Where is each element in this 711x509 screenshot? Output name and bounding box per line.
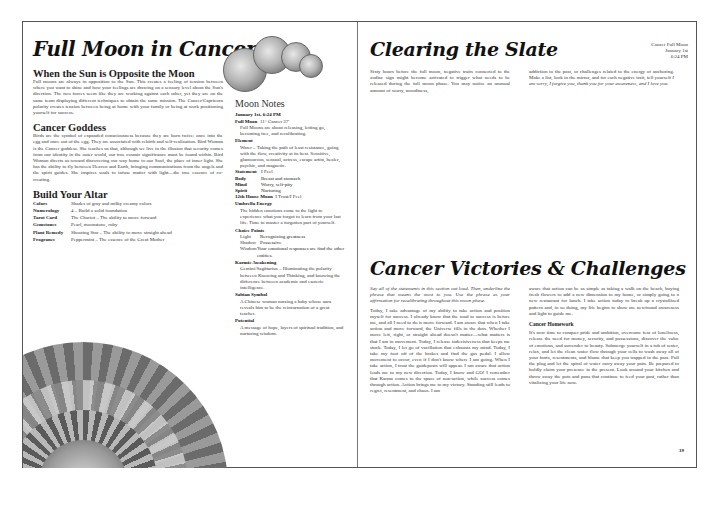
altar-row: FragrancePeppermint – The essence of the… — [33, 236, 223, 243]
house-label: 12th House Moon — [235, 194, 273, 199]
altar-value: Pearl, moonstone, ruby — [71, 221, 223, 228]
karmic-desc: Gemini/Sagittarius – Illuminating the po… — [235, 266, 345, 291]
sabian-desc: A Chinese woman nursing a baby whose aur… — [235, 299, 345, 318]
page-number: 19 — [679, 448, 684, 453]
left-main-column: When the Sun is Opposite the Moon Full m… — [33, 68, 223, 249]
house-row: 12th House Moon I Trust/I Feel — [235, 194, 345, 200]
section-heading: Build Your Altar — [33, 189, 223, 200]
altar-key: Numerology — [33, 207, 71, 214]
altar-value: The Chariot – The ability to move forwar… — [71, 214, 223, 221]
moon-notes-sidebar: Moon Notes January 1st, 6:24 PM Full Moo… — [235, 98, 345, 337]
altar-row: Numerology4 – Build a solid foundation — [33, 207, 223, 214]
section-body: Birds are the symbol of expanded conscio… — [33, 133, 223, 183]
section-body: Full moons are always in opposition to t… — [33, 79, 223, 116]
choice-key: Wisdom — [240, 246, 257, 258]
section-cancer-goddess: Cancer Goddess Birds are the symbol of e… — [33, 122, 223, 183]
section-heading: Cancer Goddess — [33, 122, 223, 133]
book-spine — [357, 22, 358, 467]
altar-key: Colors — [33, 200, 71, 207]
altar-key: Tarot Card — [33, 214, 71, 221]
clearing-slate-title: Clearing the Slate — [370, 38, 558, 60]
altar-value: 4 – Build a solid foundation — [71, 207, 223, 214]
victories-col2: aware that action can be as simple as ta… — [529, 286, 679, 389]
altar-row: Plant RemedyShooting Star – The ability … — [33, 229, 223, 236]
slate-text-col1: Sixty hours before the full moon, negati… — [370, 69, 510, 94]
section-build-altar: Build Your Altar ColorsShades of gray an… — [33, 189, 223, 243]
timestamp-line: 6:24 PM — [651, 54, 688, 60]
section-sun-opposite-moon: When the Sun is Opposite the Moon Full m… — [33, 68, 223, 116]
altar-key: Gemstones — [33, 221, 71, 228]
altar-value: Shooting Star – The ability to move stra… — [71, 229, 223, 236]
book-spread: Full Moon in Cancer When the Sun is Oppo… — [22, 21, 697, 468]
moon-image — [299, 54, 323, 78]
choice-value: Your emotional responses are find the ot… — [257, 246, 345, 258]
slate-text: addiction to the past, or challenges rel… — [529, 69, 674, 80]
choice-row: WisdomYour emotional responses are find … — [235, 246, 345, 258]
altar-row: GemstonesPearl, moonstone, ruby — [33, 221, 223, 228]
altar-key: Plant Remedy — [33, 229, 71, 236]
moon-timestamp: Cancer Full Moon January 1st 6:24 PM — [651, 42, 688, 60]
house-value: I Trust/I Feel — [275, 194, 301, 199]
altar-value: Shades of gray and milky creamy colors — [71, 200, 223, 207]
full-moon-label: Full Moon — [235, 119, 257, 124]
victories-intro: Say all of the statements in this sectio… — [370, 286, 510, 305]
full-moon-value: 11° Cancer 37' — [260, 119, 289, 124]
umbrella-desc: The hidden emotions come to the light to… — [235, 208, 345, 227]
altar-key: Fragrance — [33, 236, 71, 243]
slate-text-col2: addiction to the past, or challenges rel… — [529, 69, 674, 88]
homework-heading: Cancer Homework — [529, 321, 679, 327]
full-moon-desc: Full Moons are about releasing, letting … — [235, 125, 345, 137]
altar-row: ColorsShades of gray and milky creamy co… — [33, 200, 223, 207]
homework-text: It's now time to conquer pride and ambit… — [529, 330, 679, 386]
full-moon-illustration — [223, 30, 333, 95]
section-heading: When the Sun is Opposite the Moon — [33, 68, 223, 79]
mandala-illustration — [23, 342, 228, 468]
victories-text: Today, I take advantage of my ability to… — [370, 308, 510, 395]
element-desc: Water – Taking the path of least resista… — [235, 145, 345, 170]
potential-desc: A message of hope, layers of spiritual t… — [235, 325, 345, 337]
moon-notes-title: Moon Notes — [235, 98, 345, 109]
altar-row: Tarot CardThe Chariot – The ability to m… — [33, 214, 223, 221]
victories-text: aware that action can be as simple as ta… — [529, 286, 679, 317]
altar-value: Peppermint – The essence of the Great Mo… — [71, 236, 223, 243]
victories-title: Cancer Victories & Challenges — [370, 257, 686, 279]
victories-col1: Say all of the statements in this sectio… — [370, 286, 510, 397]
